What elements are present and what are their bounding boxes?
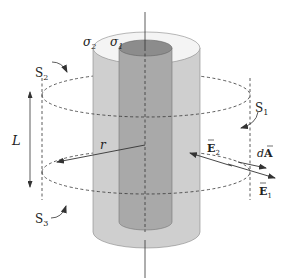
label-da: dA	[257, 146, 273, 160]
label-sigma2: σ2	[83, 35, 96, 51]
label-e2: E2	[207, 140, 220, 157]
label-e1: E1	[259, 183, 272, 200]
e1-arrow	[228, 164, 275, 178]
s2-pointer	[52, 62, 67, 72]
da-arrow	[238, 162, 266, 168]
gauss-law-coaxial-diagram: σ2 σ1 S2 S1 S3 L r E2 E1 dA	[0, 0, 283, 279]
label-length: L	[11, 133, 21, 148]
inner-cylinder-sigma1	[119, 40, 172, 230]
svg-text:dA: dA	[257, 147, 273, 160]
label-s3: S3	[35, 212, 48, 228]
svg-text:E2: E2	[207, 142, 220, 157]
s3-pointer	[51, 206, 66, 218]
label-s2: S2	[35, 66, 48, 82]
svg-text:E1: E1	[259, 185, 272, 200]
label-s1: S1	[255, 101, 268, 117]
